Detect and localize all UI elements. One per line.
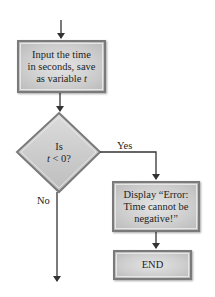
end-label: END [142, 259, 164, 271]
yes-branch-arrow [100, 152, 156, 179]
variable-t: t [84, 73, 87, 84]
error-line-3: negative!” [123, 213, 188, 225]
error-line-2: Time cannot be [123, 201, 188, 213]
yes-label: Yes [117, 140, 132, 151]
input-line-1: Input the time [28, 49, 96, 61]
decision-node: Is t < 0? [17, 113, 101, 193]
input-line-3: as variable t [28, 73, 96, 85]
error-line-1: Display “Error: [123, 189, 188, 201]
end-box: END [113, 250, 192, 280]
input-time-box: Input the time in seconds, save as varia… [17, 40, 106, 93]
no-label: No [37, 195, 50, 206]
input-line-2: in seconds, save [28, 61, 96, 73]
decision-condition: < 0? [50, 153, 71, 164]
input-line-3-text: as variable [36, 73, 84, 84]
decision-line-1: Is [55, 141, 63, 153]
flowchart: Input the time in seconds, save as varia… [0, 0, 215, 297]
decision-line-2: t < 0? [47, 153, 71, 165]
error-display-box: Display “Error: Time cannot be negative!… [112, 181, 200, 232]
